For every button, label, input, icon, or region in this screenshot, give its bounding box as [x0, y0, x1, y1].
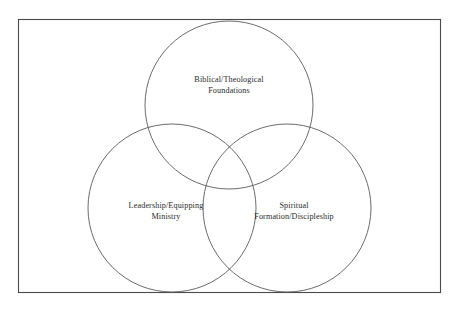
- venn-diagram: Biblical/Theological Foundations Leaders…: [0, 0, 460, 309]
- label-line-2: Ministry: [129, 212, 204, 223]
- circle-biblical-theological-foundations: [145, 21, 313, 189]
- venn-diagram-canvas: [0, 0, 460, 309]
- label-line-1: Leadership/Equipping: [129, 201, 204, 212]
- outer-border: [19, 20, 441, 293]
- label-line-1: Spiritual: [254, 201, 334, 212]
- label-line-1: Biblical/Theological: [194, 75, 263, 86]
- label-line-2: Foundations: [194, 86, 263, 97]
- label-leadership-equipping-ministry: Leadership/Equipping Ministry: [129, 201, 204, 222]
- label-spiritual-formation-discipleship: Spiritual Formation/Discipleship: [254, 201, 334, 222]
- label-biblical-theological-foundations: Biblical/Theological Foundations: [194, 75, 263, 96]
- label-line-2: Formation/Discipleship: [254, 212, 334, 223]
